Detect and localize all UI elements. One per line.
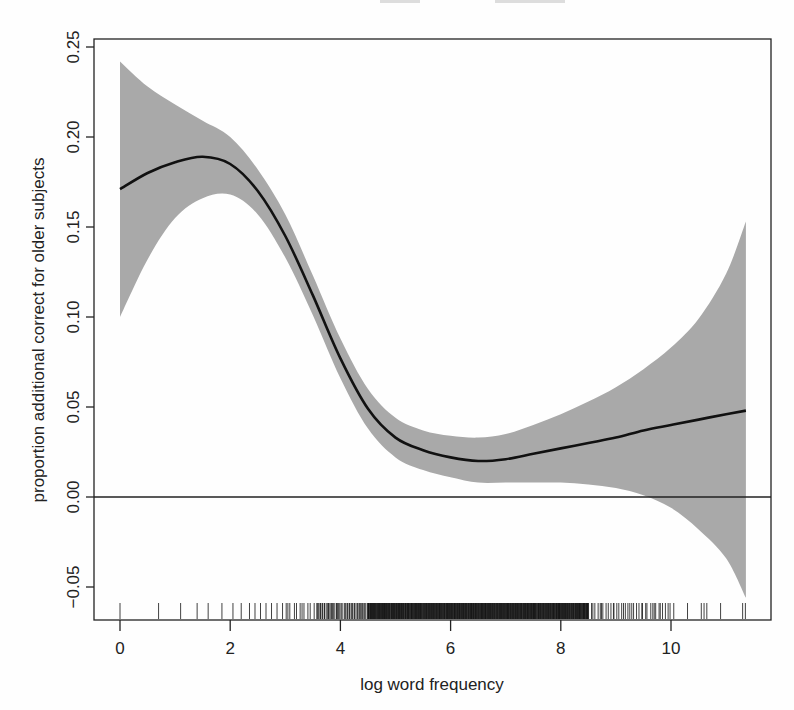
- x-tick-label: 6: [446, 639, 455, 658]
- x-tick-label: 8: [556, 639, 565, 658]
- x-axis: 0246810: [115, 620, 680, 658]
- x-tick-label: 10: [662, 639, 681, 658]
- y-tick-label: −0.05: [64, 565, 83, 608]
- y-tick-label: 0.05: [64, 390, 83, 423]
- confidence-band: [120, 61, 746, 597]
- y-axis-title: proportion additional correct for older …: [29, 158, 48, 503]
- y-tick-label: 0.25: [64, 30, 83, 63]
- y-tick-label: 0.15: [64, 210, 83, 243]
- title-fragment: [380, 0, 565, 3]
- x-tick-label: 0: [115, 639, 124, 658]
- gam-smooth-chart: −0.050.000.050.100.150.200.25 0246810 lo…: [0, 0, 794, 710]
- x-axis-title: log word frequency: [360, 675, 504, 694]
- rug-ticks: [120, 603, 745, 619]
- y-axis: −0.050.000.050.100.150.200.25: [64, 30, 94, 608]
- x-tick-label: 2: [225, 639, 234, 658]
- y-tick-label: 0.00: [64, 480, 83, 513]
- y-tick-label: 0.20: [64, 120, 83, 153]
- x-tick-label: 4: [336, 639, 345, 658]
- y-tick-label: 0.10: [64, 300, 83, 333]
